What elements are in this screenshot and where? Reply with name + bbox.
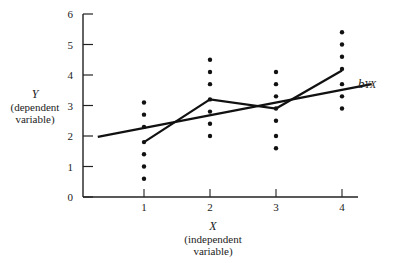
data-point — [340, 30, 344, 34]
data-point — [208, 109, 212, 113]
y-tick-label: 2 — [68, 130, 74, 142]
regression-chart: 0123456 1234 bYX Y (dependent variable) … — [0, 0, 396, 263]
x-tick-label: 2 — [207, 201, 213, 213]
x-tick-label: 3 — [273, 201, 279, 213]
data-point — [340, 42, 344, 46]
data-point — [142, 164, 146, 168]
data-point — [274, 119, 278, 123]
data-point — [208, 70, 212, 74]
scatter-points — [142, 30, 344, 181]
data-point — [142, 152, 146, 156]
x-axis-title: X — [208, 219, 217, 233]
y-tick-label: 1 — [68, 161, 74, 173]
y-axis-subtitle-2: variable) — [15, 113, 54, 126]
means-line — [144, 70, 342, 142]
data-point — [142, 112, 146, 116]
data-point — [208, 134, 212, 138]
data-point — [142, 140, 146, 144]
data-point — [340, 67, 344, 71]
data-point — [340, 82, 344, 86]
y-tick-label: 3 — [68, 100, 74, 112]
data-point — [274, 82, 278, 86]
data-point — [340, 94, 344, 98]
data-point — [142, 125, 146, 129]
x-axis: 1234 — [83, 189, 358, 213]
x-tick-label: 1 — [141, 201, 147, 213]
y-tick-label: 6 — [68, 8, 74, 20]
y-axis-title: Y — [32, 87, 40, 101]
data-point — [208, 97, 212, 101]
y-tick-label: 4 — [68, 69, 74, 81]
regression-label: bYX — [358, 76, 377, 91]
data-point — [274, 94, 278, 98]
data-point — [142, 100, 146, 104]
x-axis-subtitle-2: variable) — [193, 245, 232, 258]
data-point — [274, 70, 278, 74]
data-point — [274, 106, 278, 110]
x-tick-label: 4 — [339, 201, 345, 213]
data-point — [340, 106, 344, 110]
y-tick-label: 0 — [68, 191, 74, 203]
y-axis: 0123456 — [68, 8, 94, 203]
data-point — [274, 146, 278, 150]
data-point — [208, 122, 212, 126]
data-point — [142, 177, 146, 181]
data-point — [340, 55, 344, 59]
data-point — [274, 134, 278, 138]
regression-line — [98, 84, 372, 137]
data-point — [208, 58, 212, 62]
data-point — [208, 82, 212, 86]
y-tick-label: 5 — [68, 39, 74, 51]
